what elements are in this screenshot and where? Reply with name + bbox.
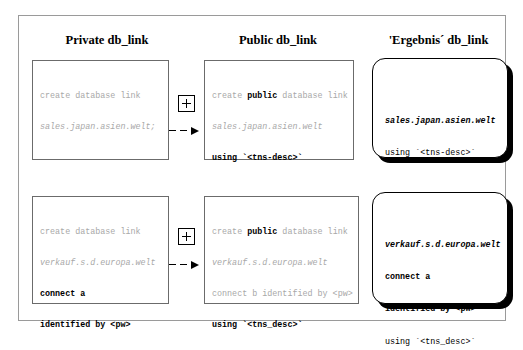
code-line: sales.japan.asien.welt: [385, 116, 504, 127]
arrow-head-icon: [191, 261, 199, 269]
result-box-row-1: sales.japan.asien.welt using `<tns-desc>…: [372, 58, 508, 158]
code-line: using `<tns-desc>`: [385, 148, 504, 159]
column-heading-public: Public db_link: [198, 33, 358, 48]
code-line: connect a: [385, 272, 504, 283]
code-line: using `<tns_desc>`: [385, 337, 504, 348]
dashed-arrow-row-2: [169, 260, 205, 269]
code-line: connect a: [40, 289, 165, 299]
result-text-row-2: verkauf.s.d.europa.welt connect a identi…: [385, 218, 504, 350]
code-line: create database link: [40, 91, 165, 101]
code-line: identified by <pw>: [385, 304, 504, 315]
code-line: using `<tns-desc>`: [212, 153, 350, 163]
code-line: connect b identified by <pw>: [212, 289, 355, 299]
code-line: using `<tns_desc>`: [212, 320, 355, 330]
arrow-head-icon: [191, 127, 199, 135]
code-box-private-row-2: create database link verkauf.s.d.europa.…: [32, 196, 169, 304]
dashed-arrow-row-1: [169, 126, 205, 135]
code-keyword: public: [247, 91, 277, 101]
code-text-private-row-2: create database link verkauf.s.d.europa.…: [40, 206, 165, 350]
code-box-private-row-1: create database link sales.japan.asien.w…: [32, 60, 169, 160]
code-box-public-row-2: create public database link verkauf.s.d.…: [204, 196, 359, 304]
code-text-private-row-1: create database link sales.japan.asien.w…: [40, 70, 165, 153]
code-line: verkauf.s.d.europa.welt: [212, 258, 355, 268]
code-line: sales.japan.asien.welt;: [40, 122, 165, 132]
code-text-public-row-2: create public database link verkauf.s.d.…: [212, 206, 355, 350]
code-line: verkauf.s.d.europa.welt: [40, 258, 165, 268]
code-line: create public database link: [212, 91, 350, 101]
top-cropped-text: · · · ·: [0, 0, 523, 13]
arrow-dash: [169, 264, 176, 265]
code-line: create public database link: [212, 227, 355, 237]
plus-icon-row-1: [178, 95, 195, 112]
code-box-public-row-1: create public database link sales.japan.…: [204, 60, 354, 160]
arrow-dash: [180, 264, 187, 265]
code-text-public-row-1: create public database link sales.japan.…: [212, 70, 350, 184]
code-line: verkauf.s.d.europa.welt: [385, 240, 504, 251]
code-keyword: public: [247, 227, 277, 237]
code-line: sales.japan.asien.welt: [212, 122, 350, 132]
code-line: identified by <pw>: [40, 320, 165, 330]
column-heading-private: Private db_link: [32, 33, 182, 48]
arrow-dash: [169, 130, 176, 131]
code-line: create database link: [40, 227, 165, 237]
column-heading-result: 'Ergebnis´ db_link: [366, 33, 511, 48]
result-box-row-2: verkauf.s.d.europa.welt connect a identi…: [372, 192, 508, 304]
arrow-dash: [180, 130, 187, 131]
result-text-row-1: sales.japan.asien.welt using `<tns-desc>…: [385, 94, 504, 180]
plus-icon-row-2: [178, 228, 195, 245]
